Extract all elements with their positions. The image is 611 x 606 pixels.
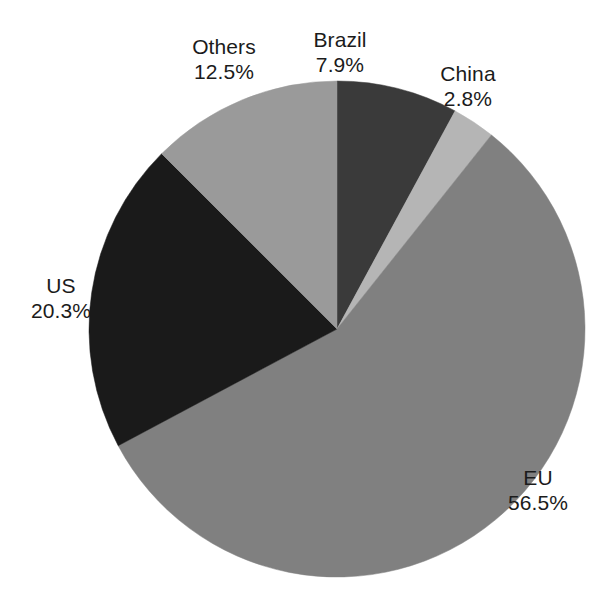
slice-label-eu-name: EU xyxy=(508,466,568,491)
slice-label-brazil: Brazil 7.9% xyxy=(313,28,366,78)
slice-label-others: Others 12.5% xyxy=(192,35,256,85)
slice-label-others-name: Others xyxy=(192,35,256,60)
slice-label-eu-value: 56.5% xyxy=(508,491,568,516)
slice-label-brazil-name: Brazil xyxy=(313,28,366,53)
pie-chart: Others 12.5% Brazil 7.9% China 2.8% US 2… xyxy=(0,0,611,606)
slice-label-us-name: US xyxy=(31,274,91,299)
slice-label-others-value: 12.5% xyxy=(192,60,256,85)
slice-label-us: US 20.3% xyxy=(31,274,91,324)
slice-label-brazil-value: 7.9% xyxy=(313,53,366,78)
slice-label-eu: EU 56.5% xyxy=(508,466,568,516)
slice-label-us-value: 20.3% xyxy=(31,299,91,324)
slice-label-china: China 2.8% xyxy=(440,62,495,112)
slice-label-china-name: China xyxy=(440,62,495,87)
slice-label-china-value: 2.8% xyxy=(440,87,495,112)
